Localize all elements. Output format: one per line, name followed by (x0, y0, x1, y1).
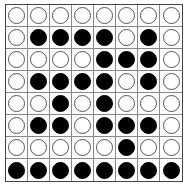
black-disc-icon (96, 51, 113, 68)
black-disc-icon (74, 73, 91, 90)
white-disc-icon (74, 117, 91, 134)
black-disc-icon (118, 51, 135, 68)
board-cell-r6-c6[interactable] (138, 137, 160, 159)
board-cell-r3-c6[interactable] (138, 71, 160, 93)
board-cell-r3-c3[interactable] (72, 71, 94, 93)
board-cell-r1-c0[interactable] (6, 27, 28, 49)
board-cell-r4-c1[interactable] (28, 93, 50, 115)
board-cell-r7-c6[interactable] (138, 159, 160, 181)
board-cell-r4-c7[interactable] (160, 93, 182, 115)
white-disc-icon (140, 95, 157, 112)
board-cell-r2-c7[interactable] (160, 49, 182, 71)
board-cell-r2-c4[interactable] (94, 49, 116, 71)
white-disc-icon (30, 51, 47, 68)
board-cell-r1-c1[interactable] (28, 27, 50, 49)
board-cell-r6-c3[interactable] (72, 137, 94, 159)
black-disc-icon (74, 29, 91, 46)
black-disc-icon (118, 117, 135, 134)
board-cell-r6-c5[interactable] (116, 137, 138, 159)
board-cell-r4-c3[interactable] (72, 93, 94, 115)
board-cell-r3-c0[interactable] (6, 71, 28, 93)
board-cell-r3-c4[interactable] (94, 71, 116, 93)
board-cell-r5-c4[interactable] (94, 115, 116, 137)
board-cell-r2-c3[interactable] (72, 49, 94, 71)
white-disc-icon (118, 7, 135, 24)
white-disc-icon (8, 29, 25, 46)
board-cell-r5-c1[interactable] (28, 115, 50, 137)
white-disc-icon (8, 7, 25, 24)
board-cell-r0-c2[interactable] (50, 5, 72, 27)
board-cell-r5-c0[interactable] (6, 115, 28, 137)
board-cell-r1-c5[interactable] (116, 27, 138, 49)
white-disc-icon (163, 139, 180, 156)
black-disc-icon (96, 117, 113, 134)
white-disc-icon (74, 51, 91, 68)
white-disc-icon (140, 7, 157, 24)
white-disc-icon (30, 7, 47, 24)
black-disc-icon (52, 73, 69, 90)
board-cell-r6-c4[interactable] (94, 137, 116, 159)
black-disc-icon (140, 51, 157, 68)
board-cell-r3-c1[interactable] (28, 71, 50, 93)
board-cell-r4-c5[interactable] (116, 93, 138, 115)
board-cell-r1-c7[interactable] (160, 27, 182, 49)
board-cell-r4-c2[interactable] (50, 93, 72, 115)
board-cell-r0-c5[interactable] (116, 5, 138, 27)
board-cell-r0-c7[interactable] (160, 5, 182, 27)
white-disc-icon (163, 51, 180, 68)
board-cell-r3-c7[interactable] (160, 71, 182, 93)
white-disc-icon (163, 117, 180, 134)
board-cell-r4-c6[interactable] (138, 93, 160, 115)
board-cell-r7-c2[interactable] (50, 159, 72, 181)
board-cell-r2-c0[interactable] (6, 49, 28, 71)
board-cell-r5-c6[interactable] (138, 115, 160, 137)
board-cell-r0-c1[interactable] (28, 5, 50, 27)
board-cell-r1-c2[interactable] (50, 27, 72, 49)
board-cell-r0-c3[interactable] (72, 5, 94, 27)
black-disc-icon (140, 73, 157, 90)
white-disc-icon (163, 7, 180, 24)
board-cell-r0-c6[interactable] (138, 5, 160, 27)
board-cell-r0-c0[interactable] (6, 5, 28, 27)
board-cell-r5-c7[interactable] (160, 115, 182, 137)
black-disc-icon (118, 162, 135, 179)
board-cell-r5-c5[interactable] (116, 115, 138, 137)
black-disc-icon (52, 95, 69, 112)
board-cell-r2-c2[interactable] (50, 49, 72, 71)
white-disc-icon (52, 139, 69, 156)
white-disc-icon (8, 139, 25, 156)
board-cell-r7-c7[interactable] (160, 159, 182, 181)
black-disc-icon (96, 95, 113, 112)
board-cell-r5-c2[interactable] (50, 115, 72, 137)
board-cell-r1-c4[interactable] (94, 27, 116, 49)
white-disc-icon (163, 29, 180, 46)
board-cell-r5-c3[interactable] (72, 115, 94, 137)
black-disc-icon (30, 29, 47, 46)
black-disc-icon (96, 162, 113, 179)
board-cell-r6-c1[interactable] (28, 137, 50, 159)
board-cell-r7-c1[interactable] (28, 159, 50, 181)
board-cell-r4-c4[interactable] (94, 93, 116, 115)
board-cell-r1-c3[interactable] (72, 27, 94, 49)
board-cell-r7-c5[interactable] (116, 159, 138, 181)
board-cell-r6-c0[interactable] (6, 137, 28, 159)
board-cell-r4-c0[interactable] (6, 93, 28, 115)
board-cell-r7-c4[interactable] (94, 159, 116, 181)
white-disc-icon (8, 51, 25, 68)
board-cell-r1-c6[interactable] (138, 27, 160, 49)
white-disc-icon (96, 7, 113, 24)
board-cell-r2-c6[interactable] (138, 49, 160, 71)
board-cell-r3-c5[interactable] (116, 71, 138, 93)
board-cell-r2-c5[interactable] (116, 49, 138, 71)
board-cell-r7-c0[interactable] (6, 159, 28, 181)
black-disc-icon (163, 162, 180, 179)
black-disc-icon (140, 117, 157, 134)
board-cell-r0-c4[interactable] (94, 5, 116, 27)
black-disc-icon (30, 73, 47, 90)
board-cell-r6-c7[interactable] (160, 137, 182, 159)
black-disc-icon (118, 139, 135, 156)
board-cell-r2-c1[interactable] (28, 49, 50, 71)
board-cell-r3-c2[interactable] (50, 71, 72, 93)
board-cell-r7-c3[interactable] (72, 159, 94, 181)
board-cell-r6-c2[interactable] (50, 137, 72, 159)
